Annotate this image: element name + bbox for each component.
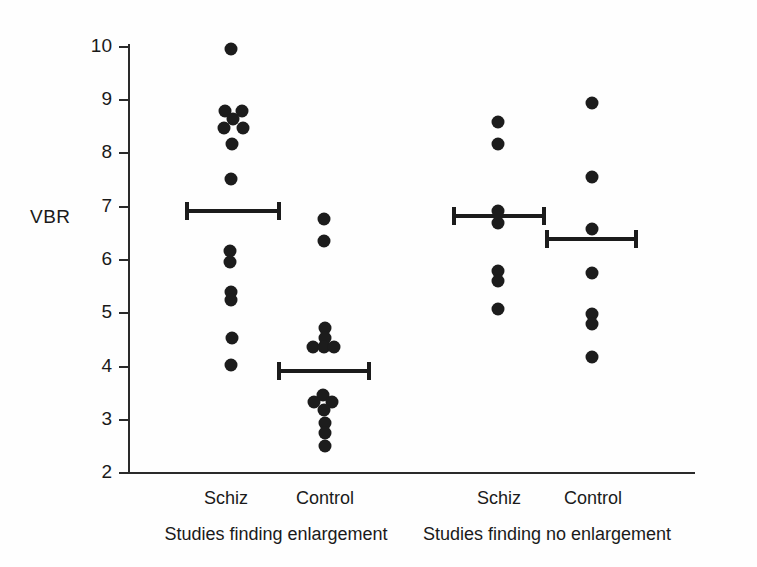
mean-bar-control-enlargement xyxy=(277,369,371,373)
group-label-schiz-no-enlargement: Schiz xyxy=(477,489,521,507)
p-ctrl-enl-7 xyxy=(328,341,341,354)
y-tick-10 xyxy=(119,46,128,48)
p-ctrl-noenl-3 xyxy=(586,223,599,236)
mean-bar-control-no-enlargement xyxy=(545,237,638,241)
p-schiz-enl-12 xyxy=(225,294,238,307)
p-schiz-enl-5 xyxy=(218,122,231,135)
vbr-scatter-figure: VBR 1098765432 SchizControlSchizControl … xyxy=(0,0,757,567)
p-ctrl-noenl-4 xyxy=(586,267,599,280)
panel-label-no-enlargement: Studies finding no enlargement xyxy=(423,525,671,543)
y-tick-4 xyxy=(119,366,128,368)
y-tick-label-8: 8 xyxy=(72,142,112,161)
y-tick-label-wrap-6: 6 xyxy=(68,249,112,268)
p-ctrl-noenl-1 xyxy=(586,97,599,110)
y-tick-label-3: 3 xyxy=(72,409,112,428)
p-schiz-enl-7 xyxy=(226,138,239,151)
x-axis-line xyxy=(128,472,695,474)
p-ctrl-enl-11 xyxy=(318,404,331,417)
p-ctrl-enl-13 xyxy=(319,427,332,440)
y-tick-7 xyxy=(119,206,128,208)
p-schiz-enl-14 xyxy=(225,359,238,372)
p-ctrl-noenl-6 xyxy=(586,318,599,331)
y-tick-2 xyxy=(119,472,128,474)
y-axis-title: VBR xyxy=(30,207,71,226)
y-tick-label-wrap-9: 9 xyxy=(68,89,112,108)
panel-label-enlargement: Studies finding enlargement xyxy=(164,525,387,543)
group-label-control-enlargement: Control xyxy=(296,489,354,507)
mean-bar-schiz-no-enlargement xyxy=(452,214,546,218)
y-tick-9 xyxy=(119,99,128,101)
p-ctrl-noenl-2 xyxy=(586,171,599,184)
y-axis-line xyxy=(128,44,130,474)
p-ctrl-enl-2 xyxy=(318,235,331,248)
p-ctrl-enl-1 xyxy=(318,213,331,226)
y-tick-label-10: 10 xyxy=(72,36,112,55)
p-ctrl-noenl-7 xyxy=(586,351,599,364)
p-schiz-noenl-1 xyxy=(492,116,505,129)
p-schiz-enl-8 xyxy=(225,173,238,186)
y-tick-label-wrap-10: 10 xyxy=(68,36,112,55)
y-tick-label-wrap-2: 2 xyxy=(68,462,112,481)
y-tick-8 xyxy=(119,152,128,154)
y-tick-label-6: 6 xyxy=(72,249,112,268)
y-tick-6 xyxy=(119,259,128,261)
y-tick-label-wrap-7: 7 xyxy=(68,196,112,215)
p-schiz-enl-13 xyxy=(226,332,239,345)
y-tick-3 xyxy=(119,419,128,421)
group-label-control-no-enlargement: Control xyxy=(564,489,622,507)
y-tick-label-2: 2 xyxy=(72,462,112,481)
y-tick-label-9: 9 xyxy=(72,89,112,108)
p-schiz-enl-1 xyxy=(225,43,238,56)
y-tick-5 xyxy=(119,312,128,314)
mean-bar-schiz-enlargement xyxy=(185,209,281,213)
p-schiz-enl-10 xyxy=(224,256,237,269)
y-tick-label-5: 5 xyxy=(72,302,112,321)
p-ctrl-enl-14 xyxy=(319,440,332,453)
p-schiz-noenl-2 xyxy=(492,138,505,151)
p-schiz-noenl-4 xyxy=(492,217,505,230)
y-tick-label-wrap-8: 8 xyxy=(68,142,112,161)
p-schiz-noenl-7 xyxy=(492,303,505,316)
group-label-schiz-enlargement: Schiz xyxy=(204,489,248,507)
y-tick-label-wrap-3: 3 xyxy=(68,409,112,428)
y-tick-label-wrap-4: 4 xyxy=(68,356,112,375)
p-schiz-noenl-6 xyxy=(492,275,505,288)
plot-area: VBR 1098765432 SchizControlSchizControl … xyxy=(0,0,757,567)
y-tick-label-7: 7 xyxy=(72,196,112,215)
p-schiz-enl-6 xyxy=(237,122,250,135)
y-tick-label-wrap-5: 5 xyxy=(68,302,112,321)
y-tick-label-4: 4 xyxy=(72,356,112,375)
